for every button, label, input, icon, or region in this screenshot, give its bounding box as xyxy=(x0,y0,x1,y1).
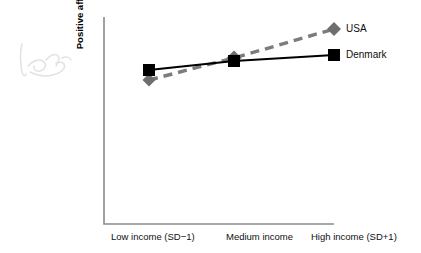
data-point-usa-high xyxy=(327,22,341,36)
handwritten-scribble-annotation xyxy=(21,44,72,76)
legend-item-usa: USA xyxy=(346,23,367,34)
legend-item-denmark: Denmark xyxy=(346,49,387,60)
series-markers-denmark xyxy=(143,49,340,76)
x-tick-label-high-income: High income (SD+1) xyxy=(311,231,397,242)
chart-plot-area xyxy=(0,0,421,253)
data-point-denmark-low xyxy=(143,64,155,76)
data-point-denmark-high xyxy=(328,49,340,61)
data-point-denmark-medium xyxy=(228,55,240,67)
chart-figure: Positive affect Low income (SD−1) Medium… xyxy=(0,0,421,253)
x-tick-label-medium-income: Medium income xyxy=(226,231,293,242)
x-tick-label-low-income: Low income (SD−1) xyxy=(111,231,195,242)
y-axis-title: Positive affect xyxy=(74,0,85,72)
axis-frame xyxy=(104,17,334,224)
series-line-usa xyxy=(149,29,334,80)
